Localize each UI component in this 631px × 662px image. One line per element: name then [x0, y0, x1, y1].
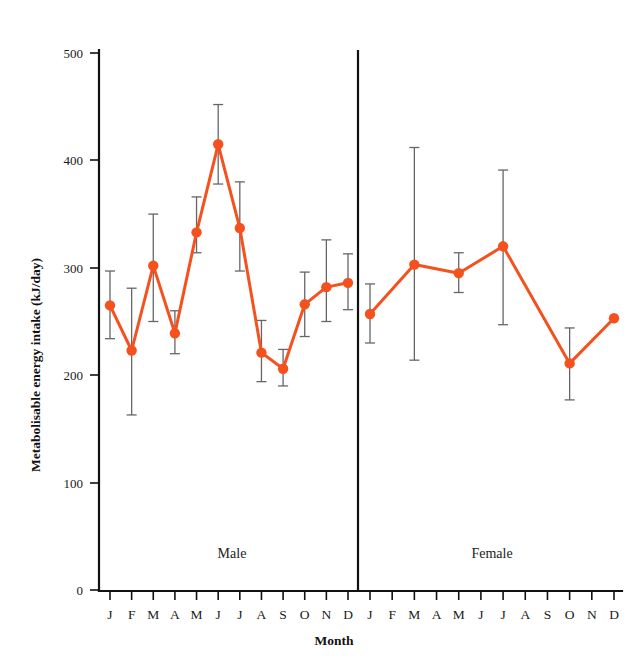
panel-label-female: Female: [471, 546, 512, 561]
data-point-marker: [235, 223, 245, 233]
data-point-marker: [170, 328, 180, 338]
left-panel-series-line: [110, 144, 348, 368]
month-label-male-10: N: [321, 607, 331, 622]
y-tick-label-100: 100: [64, 476, 84, 491]
left-panel-x-ticks: [110, 591, 348, 600]
month-label-female-3: A: [432, 607, 442, 622]
y-axis-tick-labels: 500 400 300 200 100 0: [64, 46, 84, 598]
right-panel-markers: [365, 241, 619, 368]
month-label-female-10: N: [587, 607, 597, 622]
data-point-marker: [256, 347, 266, 357]
month-label-female-7: A: [520, 607, 530, 622]
left-panel-error-bars: [105, 105, 353, 415]
month-label-female-2: M: [408, 607, 420, 622]
data-point-marker: [321, 282, 331, 292]
month-label-female-11: D: [609, 607, 619, 622]
data-point-marker: [409, 259, 419, 269]
data-point-marker: [191, 227, 201, 237]
right-panel-series-line: [370, 246, 614, 363]
data-point-marker: [105, 300, 115, 310]
data-point-marker: [343, 278, 353, 288]
right-panel-x-ticks: [370, 591, 614, 600]
month-label-male-6: J: [237, 607, 242, 622]
month-label-male-3: A: [170, 607, 180, 622]
month-label-male-2: M: [147, 607, 159, 622]
month-label-male-4: M: [191, 607, 203, 622]
data-point-marker: [564, 358, 574, 368]
data-point-marker: [213, 139, 223, 149]
y-tick-label-300: 300: [64, 261, 84, 276]
month-label-male-8: S: [279, 607, 287, 622]
y-axis-ticks: [90, 53, 99, 590]
month-label-female-8: S: [544, 607, 552, 622]
month-label-male-11: D: [343, 607, 353, 622]
data-point-marker: [148, 260, 158, 270]
right-panel-month-labels: JFMAMJJASOND: [367, 607, 619, 622]
data-point-marker: [609, 313, 619, 323]
y-axis-title: Metabolisable energy intake (kJ/day): [28, 258, 43, 472]
y-tick-label-500: 500: [64, 46, 84, 61]
line-chart-svg: Metabolisable energy intake (kJ/day) 500…: [0, 0, 631, 662]
left-panel-month-labels: JFMAMJJASOND: [107, 607, 353, 622]
month-label-female-6: J: [500, 607, 505, 622]
month-label-female-0: J: [367, 607, 372, 622]
right-panel-error-bars: [365, 148, 575, 400]
month-label-male-7: A: [257, 607, 267, 622]
month-label-male-1: F: [128, 607, 136, 622]
y-tick-label-200: 200: [64, 368, 84, 383]
chart-figure: Metabolisable energy intake (kJ/day) 500…: [0, 0, 631, 662]
y-tick-label-0: 0: [77, 583, 84, 598]
data-point-marker: [278, 364, 288, 374]
month-label-female-4: M: [453, 607, 465, 622]
month-label-male-9: O: [300, 607, 310, 622]
month-label-male-0: J: [107, 607, 112, 622]
data-point-marker: [365, 309, 375, 319]
month-label-male-5: J: [216, 607, 221, 622]
left-panel-markers: [105, 139, 353, 374]
month-label-female-9: O: [565, 607, 575, 622]
month-label-female-1: F: [388, 607, 396, 622]
x-axis-title: Month: [314, 633, 353, 648]
month-label-female-5: J: [478, 607, 483, 622]
data-point-marker: [300, 299, 310, 309]
data-point-marker: [498, 241, 508, 251]
panel-label-male: Male: [218, 546, 247, 561]
data-point-marker: [126, 345, 136, 355]
data-point-marker: [454, 268, 464, 278]
y-tick-label-400: 400: [64, 153, 84, 168]
